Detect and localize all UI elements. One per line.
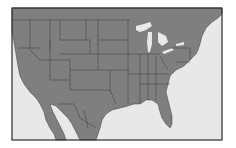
us-map	[0, 0, 236, 148]
